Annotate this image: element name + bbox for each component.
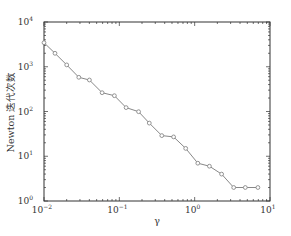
data-point-marker [196,161,200,165]
y-tick-label: 103 [18,60,33,72]
data-point-marker [88,78,92,82]
data-point-marker [147,121,151,125]
data-point-marker [113,94,117,98]
data-point-marker [172,135,176,139]
y-axis-ticks: 100101102103104 [18,15,270,206]
data-point-marker [220,172,224,176]
data-point-marker [137,110,141,114]
data-point-marker [184,147,188,151]
data-point-marker [77,75,81,79]
data-point-marker [100,91,104,95]
y-tick-label: 100 [18,194,33,206]
y-axis-label: Newton 迭代次数 [5,72,16,153]
data-point-marker [160,134,164,138]
y-tick-label: 102 [18,105,33,117]
data-point-marker [243,186,247,190]
data-point-marker [65,63,69,67]
x-tick-label: 10−1 [107,203,127,215]
x-axis-label: γ [154,215,160,226]
series-markers [42,41,260,190]
x-axis-ticks: 10−210−1100101 [32,22,276,215]
data-point-marker [256,186,260,190]
data-point-marker [232,186,236,190]
series-newton-iterations [42,41,260,190]
plot-area [44,22,270,201]
y-tick-label: 101 [18,149,33,161]
data-point-marker [208,164,212,168]
series-line [44,43,258,188]
x-tick-label: 100 [185,203,200,215]
x-tick-label: 10−2 [32,203,52,215]
minor-ticks [44,22,270,201]
plot-frame [44,22,270,201]
line-chart: 10−210−1100101 100101102103104 γ Newton … [0,0,291,236]
data-point-marker [42,41,46,45]
data-point-marker [124,106,128,110]
data-point-marker [53,51,57,55]
y-tick-label: 104 [18,15,33,27]
x-tick-label: 101 [260,203,275,215]
